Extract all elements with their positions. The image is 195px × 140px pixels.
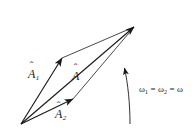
vector-parallelogram-figure: A1 A A2 ω1 = ω2 = ω [0, 0, 195, 140]
parallelogram-side-upper [62, 27, 134, 58]
omega-symbol: ω [177, 84, 183, 94]
rotation-direction-arrow [125, 68, 131, 124]
label-vector-a2: A2 [55, 108, 66, 120]
omega-equality-annotation: ω1 = ω2 = ω [139, 85, 183, 94]
label-vector-a1-symbol: A [28, 68, 35, 80]
label-vector-a1-subscript: 1 [36, 74, 40, 82]
omega-2-subscript: 2 [164, 89, 167, 95]
omega-equals-first: = [148, 84, 158, 94]
label-vector-a1: A1 [28, 68, 39, 80]
omega-1-subscript: 1 [145, 89, 148, 95]
label-vector-a2-symbol: A [55, 108, 62, 120]
parallelogram-side-lower [73, 27, 134, 99]
omega-equals-second: = [167, 84, 177, 94]
label-vector-a-resultant: A [72, 70, 79, 82]
label-vector-a-resultant-symbol: A [72, 70, 79, 82]
label-vector-a2-subscript: 2 [63, 114, 67, 122]
